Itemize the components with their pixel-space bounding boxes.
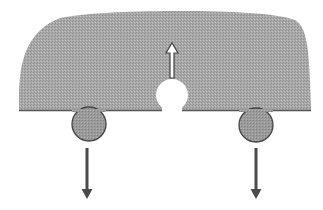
left-sphere [72, 107, 106, 141]
left-down-arrow-icon [82, 148, 93, 199]
force-diagram [0, 0, 323, 210]
right-sphere [239, 108, 273, 142]
right-down-arrow-icon [251, 148, 262, 199]
